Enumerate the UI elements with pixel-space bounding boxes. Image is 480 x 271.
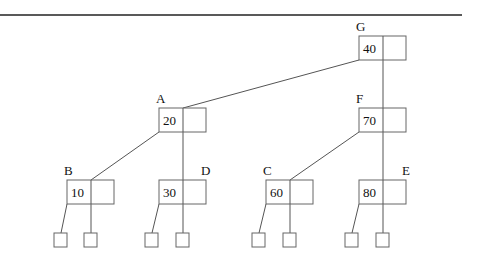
node-c-label: C [263,163,272,178]
leaf-node [283,233,296,247]
edge-a-b [91,132,159,180]
node-d-label: D [201,163,210,178]
node-a: 20 A [156,91,206,132]
node-e-key: 80 [363,185,376,200]
node-f: 70 F [356,91,406,132]
leaf-node [376,233,389,247]
leaf-node [345,233,358,247]
node-f-key: 70 [363,113,376,128]
edge-f-c [290,132,359,180]
node-a-label: A [156,91,166,106]
node-a-key: 20 [163,113,176,128]
node-e-label: E [402,163,410,178]
node-b-key: 10 [71,185,84,200]
leaf-node [252,233,265,247]
leaf-node [84,233,97,247]
leaf-node [54,233,67,247]
leaf-node [145,233,158,247]
node-g-label: G [356,19,365,34]
edge-c-leaf1 [259,204,266,233]
node-b-label: B [64,163,73,178]
edge-b-leaf1 [61,204,67,233]
node-f-label: F [356,91,363,106]
leaf-node [176,233,189,247]
node-e: 80 E [359,163,410,204]
node-d-key: 30 [163,185,176,200]
edge-e-leaf1 [352,204,359,233]
node-g: 40 G [356,19,406,60]
edge-d-leaf1 [152,204,159,233]
node-g-key: 40 [363,41,376,56]
node-c-key: 60 [270,185,283,200]
tree-diagram: 40 G 20 A 70 F 10 B 30 D 60 C 80 [0,0,480,271]
edge-g-a [183,60,359,108]
node-d: 30 D [159,163,210,204]
